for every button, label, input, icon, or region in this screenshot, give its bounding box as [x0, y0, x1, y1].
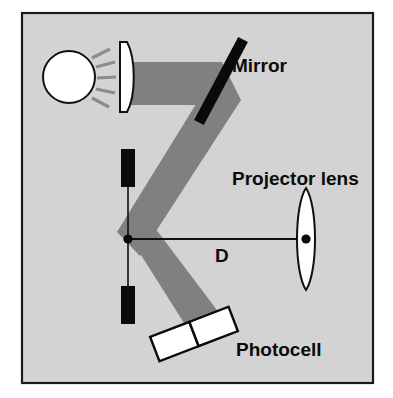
light-ray-3: [97, 77, 116, 78]
optical-diagram: Mirror Projector lens D Photocell: [0, 0, 393, 398]
label-mirror: Mirror: [232, 55, 288, 76]
slit-blade-upper-icon: [121, 149, 135, 187]
light-source-icon: [43, 51, 95, 103]
slit-blade-lower-icon: [121, 286, 135, 324]
focal-point-marker: [123, 234, 132, 243]
projector-lens-center-dot: [301, 234, 310, 243]
label-photocell: Photocell: [236, 339, 322, 360]
condenser-lens-icon: [120, 42, 134, 112]
figure-root: Mirror Projector lens D Photocell: [0, 0, 393, 398]
label-projector-lens: Projector lens: [232, 168, 359, 189]
label-distance-d: D: [215, 245, 229, 266]
